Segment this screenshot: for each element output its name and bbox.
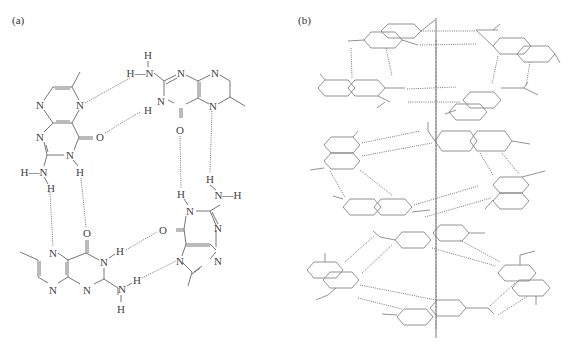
panel-b-label: (b) — [298, 14, 311, 27]
atom-h: H — [206, 173, 214, 185]
stack-tier-2 — [310, 122, 545, 217]
atom-h: H — [133, 274, 141, 286]
panel-a-tetramer: N N N O N H H—N H H H—N N N N H N O N — [20, 49, 245, 315]
atom-n: N — [211, 67, 219, 79]
molecule-top-right: H H—N N N N H N O — [127, 49, 245, 136]
atom-n: N — [36, 131, 44, 143]
atom-n: N — [36, 99, 44, 111]
atom-n: N — [157, 95, 165, 107]
stack-tier-3 — [307, 225, 550, 325]
panel-a-label: (a) — [12, 14, 25, 27]
atom-h: H — [144, 49, 152, 61]
atom-h: H — [116, 245, 124, 257]
atom-n: N — [176, 255, 184, 267]
atom-n: N — [49, 247, 57, 259]
molecule-bottom-right: H H N—H N O N N N — [159, 173, 241, 286]
molecule-top-left: N N N O N H H—N H — [21, 72, 104, 194]
atom-n: N — [66, 149, 74, 161]
atom-h: H — [47, 182, 55, 194]
atom-n: N — [49, 284, 57, 296]
atom-o: O — [176, 124, 184, 136]
atom-h: H — [76, 166, 84, 178]
molecule-bottom-left: N N N O N H N H H — [20, 227, 141, 315]
atom-n: N — [186, 205, 194, 217]
atom-n: N — [209, 100, 217, 112]
atom-nh: N—H — [215, 189, 242, 201]
atom-n: N — [214, 255, 222, 267]
atom-n: N — [100, 256, 108, 268]
atom-o: O — [96, 131, 104, 143]
atom-o: O — [159, 224, 167, 236]
atom-hn: H—N — [21, 166, 48, 178]
atom-n: N — [177, 67, 185, 79]
stack-tier-1 — [318, 20, 560, 120]
atom-n: N — [214, 222, 222, 234]
atom-n: N — [76, 99, 84, 111]
atom-n: N — [118, 283, 126, 295]
atom-h: H — [177, 188, 185, 200]
atom-h: H — [117, 303, 125, 315]
figure: (a) (b) N N N O N H H—N H H H—N N — [0, 0, 577, 347]
panel-b-stack — [307, 18, 560, 338]
atom-n: N — [83, 284, 91, 296]
atom-hn: H—N — [127, 67, 154, 79]
atom-o: O — [83, 227, 91, 239]
atom-h: H — [144, 104, 152, 116]
